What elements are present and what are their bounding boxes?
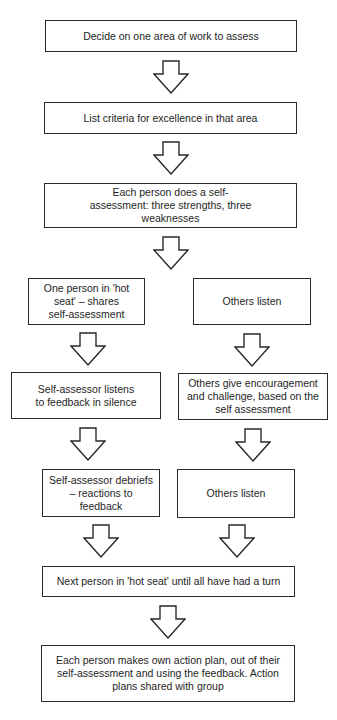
down-arrow-icon — [70, 427, 106, 461]
step-next-person-label: Next person in 'hot seat' until all have… — [57, 575, 280, 588]
left-hot-seat-shares-label: One person in 'hot seat' – shares self-a… — [43, 282, 130, 321]
step-self-assessment: Each person does a self-assessment: thre… — [44, 183, 297, 228]
step-decide-area: Decide on one area of work to assess — [45, 20, 297, 52]
down-arrow-icon — [150, 605, 186, 639]
right-others-listen-2: Others listen — [177, 469, 295, 518]
right-others-listen-1-label: Others listen — [223, 295, 282, 308]
down-arrow-icon — [235, 428, 271, 462]
step-next-person: Next person in 'hot seat' until all have… — [42, 566, 295, 597]
right-others-listen-2-label: Others listen — [207, 487, 266, 500]
step-decide-area-label: Decide on one area of work to assess — [83, 30, 259, 43]
down-arrow-icon — [70, 332, 106, 366]
step-self-assessment-label: Each person does a self-assessment: thre… — [85, 186, 256, 225]
step-list-criteria: List criteria for excellence in that are… — [44, 102, 297, 134]
step-action-plan: Each person makes own action plan, out o… — [41, 645, 295, 702]
down-arrow-icon — [153, 60, 189, 94]
right-others-give-feedback: Others give encouragement and challenge,… — [178, 373, 328, 420]
down-arrow-icon — [153, 141, 189, 175]
right-others-listen-1: Others listen — [193, 278, 311, 325]
left-self-assessor-listens-label: Self-assessor listens to feedback in sil… — [34, 383, 138, 409]
step-action-plan-label: Each person makes own action plan, out o… — [52, 654, 284, 693]
left-self-assessor-debriefs: Self-assessor debriefs – reactions to fe… — [42, 469, 160, 517]
down-arrow-icon — [219, 524, 255, 558]
left-self-assessor-listens: Self-assessor listens to feedback in sil… — [11, 372, 161, 419]
right-others-give-feedback-label: Others give encouragement and challenge,… — [185, 377, 321, 416]
down-arrow-icon — [153, 236, 189, 270]
down-arrow-icon — [83, 524, 119, 558]
step-list-criteria-label: List criteria for excellence in that are… — [84, 112, 258, 125]
down-arrow-icon — [234, 333, 270, 367]
left-hot-seat-shares: One person in 'hot seat' – shares self-a… — [28, 278, 145, 325]
left-self-assessor-debriefs-label: Self-assessor debriefs – reactions to fe… — [47, 474, 155, 513]
